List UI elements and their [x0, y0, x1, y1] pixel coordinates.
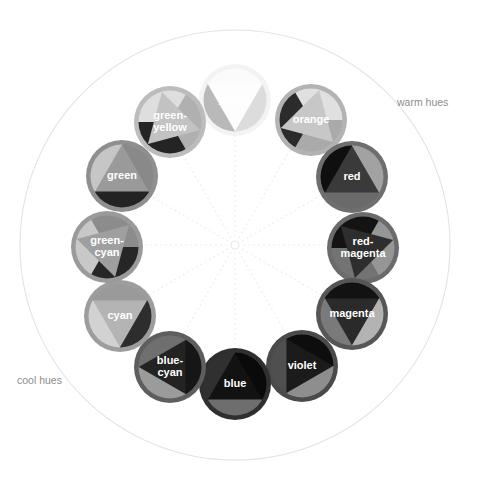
hue-disc-green-yellow[interactable]: green-yellow [134, 86, 206, 158]
spoke-green [140, 190, 228, 241]
hue-disc-violet[interactable]: violet [266, 330, 338, 402]
hue-disc-green[interactable]: green [86, 140, 158, 212]
hue-disc-cyan[interactable]: cyan [84, 280, 156, 352]
hue-disc-yellow[interactable]: yellow [199, 64, 271, 136]
spoke-orange [239, 150, 290, 238]
spoke-cyan [140, 249, 228, 300]
spokes-layer [125, 135, 345, 355]
hue-disc-red-magenta[interactable]: red-magenta [327, 212, 399, 284]
zone-label-warm-hues: warm hues [396, 96, 448, 108]
spoke-violet [239, 252, 290, 340]
spoke-blue-cyan [180, 252, 231, 340]
zone-label-cool-hues: cool hues [17, 374, 62, 386]
hue-discs-layer: yelloworangeredred-magentamagentavioletb… [71, 64, 399, 420]
hue-disc-blue[interactable]: blue [199, 348, 271, 420]
color-wheel-figure: yelloworangeredred-magentamagentavioletb… [0, 0, 477, 488]
hue-disc-magenta[interactable]: magenta [316, 278, 388, 350]
spoke-magenta [242, 249, 330, 300]
hue-disc-green-cyan[interactable]: green-cyan [71, 211, 143, 283]
wheel-hub [231, 241, 239, 249]
spoke-red [242, 190, 330, 241]
hue-disc-red[interactable]: red [316, 141, 388, 213]
color-wheel-canvas: yelloworangeredred-magentamagentavioletb… [0, 0, 477, 488]
spoke-green-yellow [180, 150, 231, 238]
